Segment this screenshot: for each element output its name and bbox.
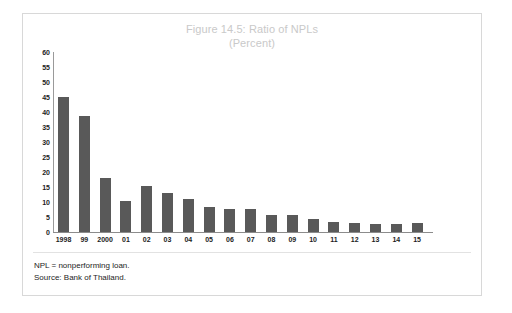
y-axis-tick-label: 30 [42, 139, 50, 146]
y-axis-tick-label: 45 [42, 94, 50, 101]
bar [287, 215, 298, 232]
bar-series [54, 52, 439, 232]
x-axis-tick-label: 1998 [56, 236, 72, 243]
x-axis-tick-label: 02 [143, 236, 151, 243]
x-axis-tick-label: 2000 [97, 236, 113, 243]
x-axis-line [53, 232, 433, 233]
x-axis-tick-label: 01 [122, 236, 130, 243]
bar [412, 223, 423, 232]
y-axis-tick-label: 5 [46, 214, 50, 221]
bar [58, 97, 69, 232]
y-axis-tick-label: 15 [42, 184, 50, 191]
bar [120, 201, 131, 233]
x-axis-tick-label: 09 [288, 236, 296, 243]
y-axis-tick-label: 50 [42, 79, 50, 86]
bar [308, 219, 319, 232]
x-axis-tick-label: 12 [351, 236, 359, 243]
x-axis-tick-label: 99 [80, 236, 88, 243]
x-axis-tick-label: 14 [392, 236, 400, 243]
bar [224, 209, 235, 232]
y-axis-tick-label: 10 [42, 199, 50, 206]
x-axis-tick-label: 13 [372, 236, 380, 243]
y-axis-tick-label: 25 [42, 154, 50, 161]
bar [370, 224, 381, 232]
x-axis-tick-label: 07 [247, 236, 255, 243]
note-definition: NPL = nonperforming loan. [34, 260, 130, 272]
title-line-units: (Percent) [23, 36, 481, 50]
x-axis-tick-label: 08 [268, 236, 276, 243]
figure-notes: NPL = nonperforming loan. Source: Bank o… [34, 260, 130, 284]
x-axis-tick-label: 06 [226, 236, 234, 243]
bar [183, 199, 194, 232]
bar [141, 186, 152, 233]
title-line-main: Figure 14.5: Ratio of NPLs [23, 22, 481, 36]
y-axis-tick-label: 60 [42, 49, 50, 56]
notes-divider [33, 252, 471, 253]
plot-area: 051015202530354045505560 199899200001020… [53, 52, 439, 233]
x-axis-tick-label: 15 [413, 236, 421, 243]
y-axis-tick-label: 55 [42, 64, 50, 71]
bar [391, 224, 402, 232]
x-axis-tick-label: 05 [205, 236, 213, 243]
bar [162, 193, 173, 232]
bar [328, 222, 339, 232]
x-axis-tick-label: 11 [330, 236, 337, 243]
y-axis-tick-label: 20 [42, 169, 50, 176]
y-axis-tick-label: 0 [46, 229, 50, 236]
x-axis-tick-label: 10 [309, 236, 317, 243]
y-axis-tick-label: 40 [42, 109, 50, 116]
bar [79, 116, 90, 232]
x-axis-tick-labels: 1998992000010203040506070809101112131415 [54, 236, 439, 250]
x-axis-tick-label: 03 [164, 236, 172, 243]
figure-frame: Figure 14.5: Ratio of NPLs (Percent) 051… [22, 13, 482, 296]
bar [204, 207, 215, 233]
x-axis-tick-label: 04 [184, 236, 192, 243]
note-source: Source: Bank of Thailand. [34, 272, 130, 284]
bar [100, 178, 111, 232]
y-axis-tick-label: 35 [42, 124, 50, 131]
bar [349, 223, 360, 232]
bar [266, 215, 277, 232]
figure-title: Figure 14.5: Ratio of NPLs (Percent) [23, 22, 481, 50]
bar [245, 209, 256, 232]
